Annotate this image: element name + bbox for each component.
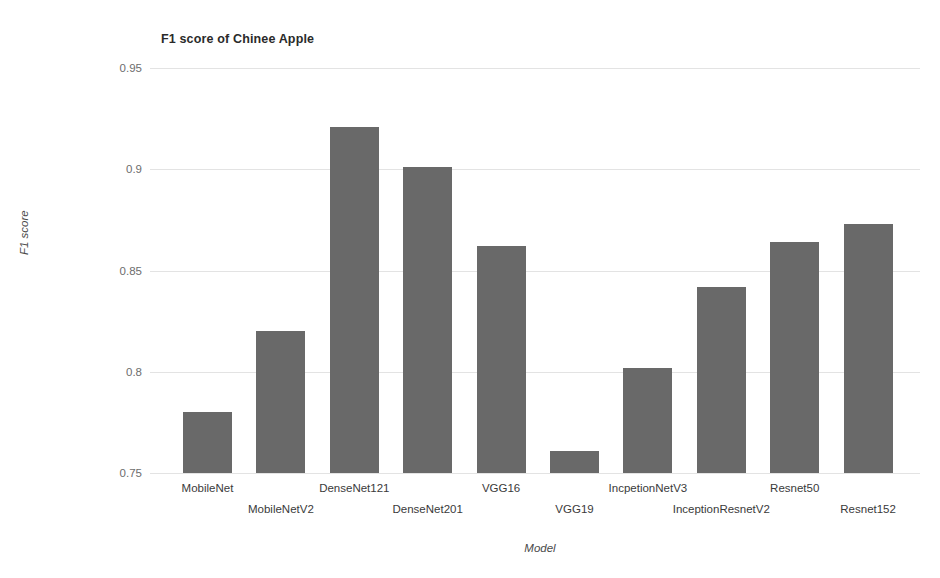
x-tick-label: MobileNetV2 [248,503,314,515]
bar [550,451,599,473]
x-tick-label: Resnet152 [840,503,896,515]
bar [770,242,819,473]
y-axis-ticks: 0.950.90.850.80.75 [94,68,142,473]
y-tick-label: 0.9 [98,163,142,175]
x-tick-label: DenseNet121 [319,482,389,494]
x-tick-label: VGG19 [555,503,593,515]
chart-title: F1 score of Chinee Apple [161,32,314,46]
bar [477,246,526,473]
x-tick-label: MobileNet [182,482,234,494]
x-tick-label: IncpetionNetV3 [609,482,688,494]
x-tick-label: DenseNet201 [393,503,463,515]
x-tick-label: InceptionResnetV2 [673,503,770,515]
bar [330,127,379,473]
x-axis-title: Model [524,542,555,554]
x-tick-label: VGG16 [482,482,520,494]
bar [403,167,452,473]
bar [697,287,746,473]
y-axis-title: F1 score [18,210,30,255]
y-tick-label: 0.95 [98,62,142,74]
bar-chart: F1 score of Chinee Apple 0.950.90.850.80… [0,0,940,578]
x-tick-label: Resnet50 [770,482,819,494]
bars-container [150,68,920,473]
x-axis-ticks: MobileNetMobileNetV2DenseNet121DenseNet2… [0,473,940,533]
bar [183,412,232,473]
bar [844,224,893,473]
y-tick-label: 0.85 [98,265,142,277]
bar [256,331,305,473]
y-tick-label: 0.8 [98,366,142,378]
bar [623,368,672,473]
